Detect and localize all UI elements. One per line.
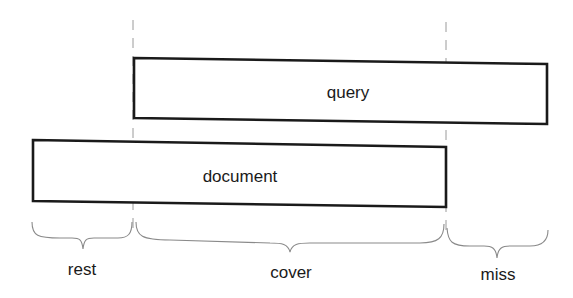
miss-label: miss <box>481 265 516 284</box>
document-label: document <box>203 167 278 186</box>
rest-label: rest <box>68 260 97 279</box>
cover-label: cover <box>270 263 312 282</box>
query-box: query <box>134 58 547 124</box>
query-label: query <box>327 83 370 102</box>
miss-brace <box>447 228 548 258</box>
document-box: document <box>33 140 446 207</box>
overlap-diagram: query document rest cover miss <box>0 0 573 298</box>
rest-brace <box>32 222 132 249</box>
cover-brace <box>136 222 444 252</box>
